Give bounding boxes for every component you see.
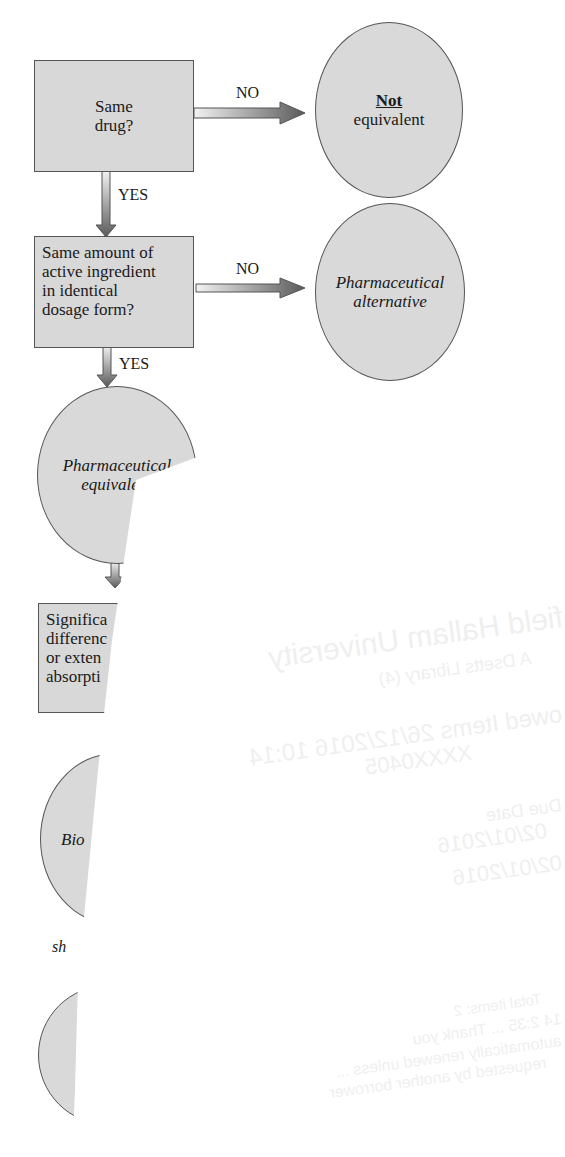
paper-overlay bbox=[0, 0, 560, 1157]
